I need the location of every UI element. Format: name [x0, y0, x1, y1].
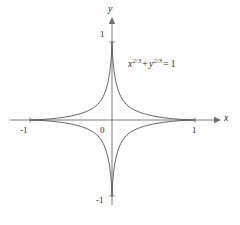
x-axis-label: x	[224, 113, 228, 123]
x-tick-label-left: -1	[20, 126, 28, 135]
y-tick-label-bottom: -1	[96, 196, 104, 205]
x-axis-arrowhead	[214, 117, 221, 123]
x-tick-label-right: 1	[192, 126, 197, 135]
y-tick-label-top: 1	[100, 30, 105, 39]
equation-right-hand-side: 1	[170, 59, 177, 69]
plot-canvas	[0, 0, 240, 225]
y-axis-label: y	[108, 4, 112, 14]
equation-exponent-x: 2/3	[132, 57, 141, 64]
astroid-figure: y x 1 -1 -1 1 0 x2/3+y2/3=1	[0, 0, 240, 225]
origin-label: 0	[100, 126, 105, 135]
equation-exponent-y: 2/3	[153, 57, 162, 64]
equation-equals-sign: =	[162, 59, 170, 69]
equation-plus-sign: +	[141, 59, 149, 69]
y-axis-arrowhead	[109, 17, 115, 24]
equation-annotation: x2/3+y2/3=1	[128, 60, 177, 70]
